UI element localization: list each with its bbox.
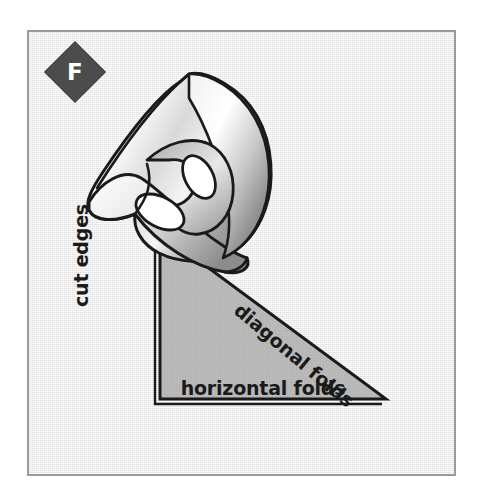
label-cut-edges: cut edges: [72, 186, 91, 326]
curled-paper-cone: [88, 73, 271, 272]
figure-plate: F cut edges diagonal folds horizontal fo…: [27, 30, 456, 476]
label-horizontal-folds: horizontal folds: [133, 379, 393, 398]
panel-badge: F: [45, 42, 105, 102]
figure-root: F cut edges diagonal folds horizontal fo…: [0, 0, 478, 497]
panel-badge-letter: F: [45, 42, 105, 102]
